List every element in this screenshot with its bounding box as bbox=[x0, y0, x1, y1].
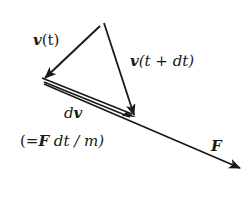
velocity-force-diagram: v(t) v(t + dt) dv (=F dt / m) F bbox=[0, 0, 252, 221]
label-dv-equation: (=F dt / m) bbox=[20, 132, 104, 150]
label-v-t-dt: v(t + dt) bbox=[130, 52, 194, 70]
label-force: F bbox=[210, 137, 223, 155]
dv-vector bbox=[42, 78, 136, 117]
label-v-t: v(t) bbox=[33, 31, 59, 49]
label-dv: dv bbox=[64, 104, 83, 122]
force-vector bbox=[44, 84, 240, 168]
